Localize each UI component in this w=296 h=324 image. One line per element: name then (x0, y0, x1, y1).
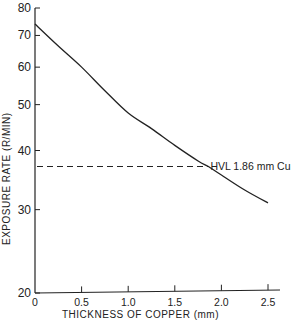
x-tick-label: 0 (32, 296, 38, 308)
axes (35, 8, 280, 293)
hvl-annotation: HVL 1.86 mm Cu (210, 160, 290, 172)
y-tick-label: 20 (18, 286, 32, 300)
y-tick-label: 40 (18, 144, 32, 158)
x-tick-label: 0.5 (74, 296, 89, 308)
y-tick-label: 60 (18, 60, 32, 74)
x-axis-ticks: 00.51.01.52.02.5 (32, 284, 275, 308)
y-axis-title: EXPOSURE RATE (R/MIN) (1, 112, 12, 245)
y-tick-label: 80 (18, 1, 32, 15)
y-tick-label: 30 (18, 203, 32, 217)
x-axis-line (35, 290, 280, 293)
x-tick-label: 1.5 (167, 296, 182, 308)
exposure-rate-chart: 20304050607080 00.51.01.52.02.5 HVL 1.86… (0, 0, 296, 324)
exposure-curve (35, 24, 268, 203)
x-axis-title: THICKNESS OF COPPER (mm) (62, 309, 219, 320)
y-tick-label: 70 (18, 28, 32, 42)
x-tick-label: 1.0 (121, 296, 136, 308)
x-tick-label: 2.5 (261, 296, 276, 308)
y-tick-label: 50 (18, 98, 32, 112)
y-axis-ticks: 20304050607080 (18, 1, 40, 300)
x-tick-label: 2.0 (214, 296, 229, 308)
